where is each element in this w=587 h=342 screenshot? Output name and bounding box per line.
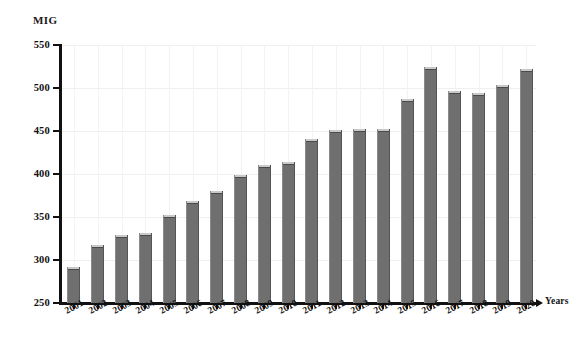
bar-2006 (186, 201, 199, 303)
y-axis-tick-label-wrap: 400 (0, 168, 50, 180)
y-axis-tick-label-wrap: 350 (0, 211, 50, 223)
x-axis-title: Years (545, 296, 569, 306)
bar-2010 (282, 162, 295, 303)
y-axis-tick-label-wrap: 550 (0, 39, 50, 51)
y-axis-tick-label: 450 (16, 125, 50, 136)
bar-chart: MIG 250300350400450500550 20012002200320… (0, 0, 587, 342)
bar-2002 (91, 245, 104, 303)
bar-2007 (210, 191, 223, 303)
y-axis-title: MIG (33, 14, 57, 26)
y-axis-tick (53, 44, 60, 46)
y-axis-tick (53, 130, 60, 132)
bar-2020 (520, 69, 533, 303)
y-axis-tick-label-wrap: 300 (0, 254, 50, 266)
y-axis-tick (53, 216, 60, 218)
bar-2015 (401, 99, 414, 303)
bar-2004 (139, 233, 152, 303)
bar-2009 (258, 165, 271, 303)
y-axis-tick-label-wrap: 250 (0, 297, 50, 309)
bar-2018 (472, 93, 485, 303)
bars-layer (62, 45, 538, 303)
y-axis-tick (53, 302, 60, 304)
bar-2013 (353, 129, 366, 303)
bar-2005 (163, 215, 176, 303)
bar-2017 (448, 91, 461, 303)
y-axis-tick (53, 87, 60, 89)
bar-2014 (377, 129, 390, 303)
y-axis-tick (53, 259, 60, 261)
bar-2016 (424, 67, 437, 303)
y-axis-tick-label: 400 (16, 168, 50, 179)
bar-2003 (115, 235, 128, 303)
y-axis-tick-label: 250 (16, 297, 50, 308)
y-axis-tick-label: 550 (16, 39, 50, 50)
bar-2012 (329, 130, 342, 303)
bar-2019 (496, 85, 509, 303)
y-axis-tick-label-wrap: 450 (0, 125, 50, 137)
y-axis-tick (53, 173, 60, 175)
y-axis-tick-label: 350 (16, 211, 50, 222)
bar-2008 (234, 175, 247, 303)
bar-2011 (305, 139, 318, 303)
y-axis-tick-label: 500 (16, 82, 50, 93)
y-axis-tick-label-wrap: 500 (0, 82, 50, 94)
y-axis-tick-label: 300 (16, 254, 50, 265)
